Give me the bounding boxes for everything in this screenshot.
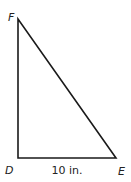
triangle-diagram: F D E 10 in. [0,0,131,182]
vertex-label-e: E [118,165,125,178]
side-label-de: 10 in. [51,164,82,177]
vertex-label-f: F [8,11,15,24]
triangle-def [18,19,116,158]
vertex-label-d: D [5,164,13,177]
